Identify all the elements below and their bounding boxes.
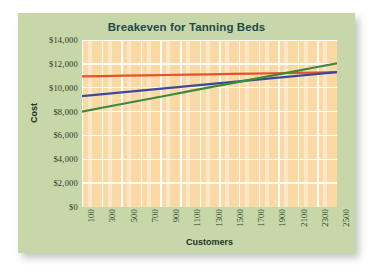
y-tick-label: $6,000 — [20, 130, 78, 140]
x-tick-label: 900 — [171, 209, 181, 222]
x-tick-label: 100 — [86, 209, 96, 222]
y-tick-label: $2,000 — [20, 178, 78, 188]
x-tick-label: 2500 — [341, 209, 351, 227]
x-tick-label: 1700 — [256, 209, 266, 227]
y-tick-label: $0 — [20, 202, 78, 212]
x-tick-label: 2300 — [320, 209, 330, 227]
y-tick-label: $8,000 — [20, 107, 78, 117]
y-tick-label: $4,000 — [20, 154, 78, 164]
x-tick-label: 1500 — [235, 209, 245, 227]
series-lines — [82, 40, 337, 207]
series-green-line — [82, 63, 337, 111]
y-axis-tick-labels: $0$2,000$4,000$6,000$8,000$10,000$12,000… — [18, 40, 78, 207]
y-tick-label: $12,000 — [20, 59, 78, 69]
x-tick-label: 1900 — [277, 209, 287, 227]
y-tick-label: $14,000 — [20, 35, 78, 45]
x-tick-label: 1300 — [214, 209, 224, 227]
x-axis-title: Customers — [82, 237, 337, 247]
plot-area — [82, 40, 337, 207]
y-tick-label: $10,000 — [20, 83, 78, 93]
x-tick-label: 2100 — [299, 209, 309, 227]
x-tick-label: 700 — [150, 209, 160, 222]
x-tick-label: 300 — [107, 209, 117, 222]
x-tick-label: 500 — [129, 209, 139, 222]
x-tick-label: 1100 — [192, 209, 202, 227]
page-canvas: Breakeven for Tanning Beds Cost $0$2,000… — [0, 0, 375, 272]
chart-card: Breakeven for Tanning Beds Cost $0$2,000… — [18, 13, 355, 253]
chart-title: Breakeven for Tanning Beds — [18, 21, 355, 33]
